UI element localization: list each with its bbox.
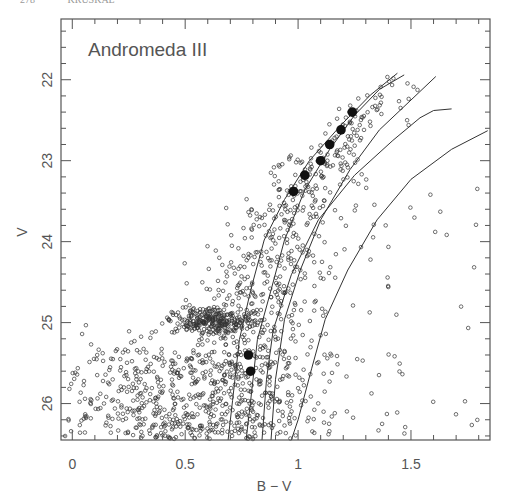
y-tick-label: 22 [39, 72, 55, 88]
highlighted-star [244, 350, 254, 360]
x-tick-labels: 00.511.5 [68, 456, 421, 472]
x-tick-label: 1.5 [401, 456, 421, 472]
highlighted-star [246, 366, 256, 376]
cmd-chart: 00.511.5 2223242526 B − V V Andromeda II… [0, 0, 509, 504]
scatter-points [63, 75, 479, 441]
highlighted-star [289, 187, 299, 197]
x-tick-label: 1 [294, 456, 302, 472]
highlighted-star [325, 140, 335, 150]
y-tick-label: 24 [39, 234, 55, 250]
x-tick-label: 0 [68, 456, 76, 472]
y-axis-label: V [14, 227, 30, 237]
y-tick-label: 26 [39, 396, 55, 412]
y-tick-label: 23 [39, 153, 55, 169]
y-tick-labels: 2223242526 [39, 72, 55, 412]
highlighted-star [316, 156, 326, 166]
highlighted-star [300, 170, 310, 180]
highlighted-star [347, 107, 357, 117]
highlighted-star [336, 125, 346, 135]
x-tick-label: 0.5 [175, 456, 195, 472]
y-tick-label: 25 [39, 315, 55, 331]
galaxy-annotation: Andromeda III [88, 39, 207, 60]
x-axis-label: B − V [257, 478, 292, 494]
